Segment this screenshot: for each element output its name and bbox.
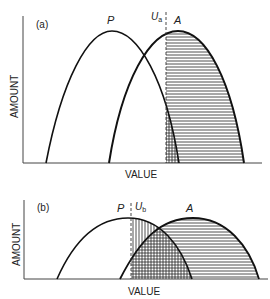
curve-label-p-a: P	[107, 14, 115, 26]
threshold-label-ub: Ub	[135, 201, 146, 213]
panel-label-a: (a)	[36, 19, 48, 30]
curve-label-a-a: A	[173, 14, 181, 26]
y-axis-label-b: AMOUNT	[11, 223, 22, 266]
curve-label-a-b: A	[185, 202, 193, 214]
x-axis-label-b: VALUE	[128, 286, 160, 297]
shaded-region-a-horizontal	[166, 20, 256, 163]
x-axis-label-a: VALUE	[125, 169, 157, 180]
y-axis-label-a: AMOUNT	[9, 75, 20, 118]
panel-a: (a) P A Ua AMOUNT VALUE	[9, 11, 262, 180]
curve-label-p-b: P	[117, 202, 125, 214]
panel-b: (b) P A Ub AMOUNT VALUE	[11, 200, 268, 297]
threshold-label-ua: Ua	[151, 11, 162, 23]
panel-label-b: (b)	[37, 202, 49, 213]
diagram: (a) P A Ua AMOUNT VALUE	[0, 0, 270, 299]
